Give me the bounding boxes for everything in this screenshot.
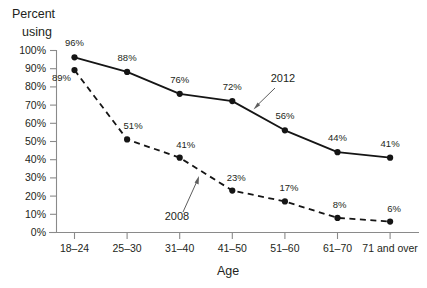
data-point-label: 51% [124, 120, 144, 131]
y-tick-label: 100% [19, 44, 46, 56]
data-point-label: 23% [227, 172, 247, 183]
data-point-label: 41% [176, 139, 196, 150]
data-point-label: 88% [118, 52, 138, 63]
data-point [334, 149, 340, 155]
x-tick-label: 41–50 [218, 242, 247, 254]
y-tick-label: 10% [25, 208, 46, 220]
data-point-label: 41% [381, 138, 401, 149]
data-point [387, 218, 393, 224]
y-tick-label: 80% [25, 80, 46, 92]
y-tick-label: 20% [25, 190, 46, 202]
line-chart: Percent using 100% 90% 80% 70% 60% 50% 4… [0, 0, 427, 288]
x-tick-label: 31–40 [165, 242, 194, 254]
data-point-label: 6% [387, 203, 401, 214]
data-point [282, 198, 288, 204]
y-tick-label: 40% [25, 153, 46, 165]
data-point-label: 96% [65, 37, 85, 48]
data-point-label: 56% [275, 110, 295, 121]
data-point [282, 127, 288, 133]
annotation-2012-label: 2012 [271, 72, 295, 84]
data-point [71, 67, 77, 73]
y-axis-title-line2: using [22, 25, 52, 39]
data-point-label: 72% [223, 81, 243, 92]
data-point-label: 44% [328, 132, 348, 143]
data-point [334, 215, 340, 221]
data-point [177, 155, 183, 161]
data-point [124, 136, 130, 142]
y-tick-label: 0% [31, 226, 46, 238]
data-point-label: 89% [52, 72, 72, 83]
x-tick-label: 18–24 [60, 242, 89, 254]
y-tick-label: 50% [25, 135, 46, 147]
y-tick-label: 30% [25, 171, 46, 183]
x-axis-title: Age [217, 264, 239, 278]
data-point [387, 155, 393, 161]
x-tick-label: 25–30 [112, 242, 141, 254]
chart-container: Percent using 100% 90% 80% 70% 60% 50% 4… [0, 0, 427, 288]
data-point-label: 17% [279, 182, 299, 193]
y-tick-label: 70% [25, 99, 46, 111]
data-point [229, 187, 235, 193]
data-point-label: 8% [333, 199, 347, 210]
data-point [229, 98, 235, 104]
data-point [71, 54, 77, 60]
annotation-2008-label: 2008 [165, 210, 189, 222]
x-tick-label: 71 and over [362, 242, 418, 254]
y-axis-title-line1: Percent [12, 7, 56, 21]
data-point [177, 91, 183, 97]
x-tick-label: 61–70 [323, 242, 352, 254]
y-tick-label: 60% [25, 117, 46, 129]
y-tick-label: 90% [25, 62, 46, 74]
data-point [124, 69, 130, 75]
x-tick-label: 51–60 [270, 242, 299, 254]
data-point-label: 76% [170, 74, 190, 85]
